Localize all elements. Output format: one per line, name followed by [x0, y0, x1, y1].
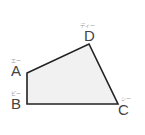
vertex-b-label: B	[11, 96, 21, 111]
vertex-c-label: C	[118, 102, 129, 117]
quadrilateral-abcd	[27, 44, 118, 104]
vertex-a-label: A	[11, 63, 21, 78]
vertex-d-label: D	[84, 28, 95, 43]
